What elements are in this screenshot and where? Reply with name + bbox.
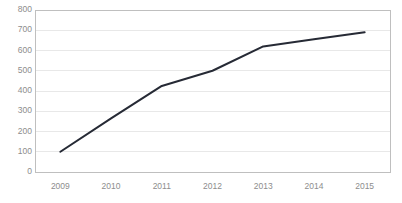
x-tick-label: 2013 (254, 181, 273, 191)
x-tick-label: 2015 (355, 181, 374, 191)
x-tick-label: 2014 (304, 181, 323, 191)
x-axis-tick-labels: 2009201020112012201320142015 (0, 0, 402, 203)
x-tick-label: 2012 (203, 181, 222, 191)
line-chart: 0100200300400500600700800 20092010201120… (0, 0, 402, 203)
x-tick-label: 2010 (102, 181, 121, 191)
x-tick-label: 2009 (51, 181, 70, 191)
x-tick-label: 2011 (153, 181, 171, 191)
